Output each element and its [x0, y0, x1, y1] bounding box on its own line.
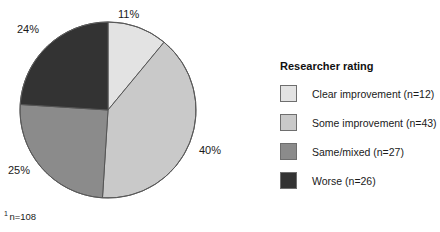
pie-label-worse: 24% [17, 23, 39, 35]
footnote-marker: 1 [4, 210, 8, 217]
legend-title: Researcher rating [280, 60, 438, 73]
pie-slice-worse[interactable] [20, 22, 108, 110]
footnote-text: n=108 [9, 211, 36, 222]
pie-chart-plot-area: 11% 40% 25% 24% [0, 0, 230, 232]
legend-swatch-same-mixed [280, 143, 297, 160]
pie-label-same-mixed: 25% [8, 164, 30, 176]
pie-label-some-improvement: 40% [199, 144, 221, 156]
legend-swatch-clear-improvement [280, 85, 297, 102]
pie-chart-figure: 11% 40% 25% 24% 1n=108 Researcher rating… [0, 0, 440, 232]
legend-swatch-some-improvement [280, 114, 297, 131]
legend-item-clear-improvement[interactable]: Clear improvement (n=12) [280, 85, 438, 102]
legend-swatch-worse [280, 172, 297, 189]
legend-item-worse[interactable]: Worse (n=26) [280, 172, 438, 189]
pie-slice-same-mixed[interactable] [20, 104, 108, 197]
legend-label-worse: Worse (n=26) [312, 175, 376, 187]
legend-label-some-improvement: Some improvement (n=43) [312, 117, 437, 129]
legend-item-same-mixed[interactable]: Same/mixed (n=27) [280, 143, 438, 160]
pie-label-clear-improvement: 11% [118, 8, 139, 20]
chart-legend: Researcher rating Clear improvement (n=1… [280, 60, 438, 189]
legend-label-same-mixed: Same/mixed (n=27) [312, 146, 404, 158]
legend-item-some-improvement[interactable]: Some improvement (n=43) [280, 114, 438, 131]
chart-footnote: 1n=108 [4, 211, 36, 222]
legend-label-clear-improvement: Clear improvement (n=12) [312, 88, 434, 100]
